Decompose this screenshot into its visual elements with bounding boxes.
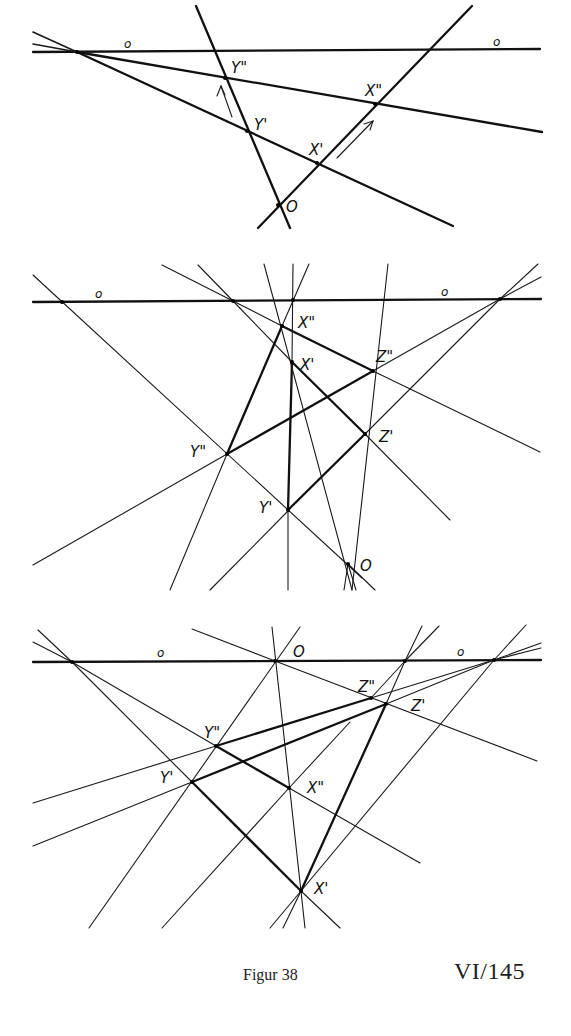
- label-y2: Y": [204, 724, 220, 742]
- label-y2: Y": [231, 59, 247, 77]
- axis-o-line: [33, 299, 541, 302]
- label-z2: Z": [375, 348, 393, 366]
- label-O: O: [293, 643, 305, 661]
- panel-top: o o Y" Y' X" X' O: [33, 6, 542, 228]
- label-z2: Z": [357, 678, 375, 696]
- page-reference: VI/145: [454, 958, 525, 985]
- line-y-track: [196, 6, 290, 228]
- label-o-right: o: [493, 35, 500, 49]
- label-x1: X': [313, 880, 328, 898]
- axis-o-line: [33, 49, 540, 52]
- label-o-left: o: [95, 287, 102, 301]
- figure-caption: Figur 38: [243, 966, 298, 984]
- arrow-y-icon: [217, 86, 232, 117]
- label-x2: X": [306, 779, 324, 797]
- label-x1: X': [299, 356, 314, 374]
- label-z1: Z': [378, 428, 393, 446]
- label-x1: X': [308, 141, 323, 159]
- line-vertex-y1-x1: [77, 52, 453, 226]
- label-O: O: [360, 557, 372, 575]
- label-o-right: o: [441, 285, 448, 299]
- figure-38-diagram: o o Y" Y' X" X' O: [0, 0, 571, 1036]
- label-y1: Y': [259, 499, 272, 517]
- line-vertex-y2-x2: [77, 52, 542, 132]
- panel-bottom: o o O Z" Z' Y" Y' X" X': [33, 625, 541, 928]
- label-y2: Y": [190, 443, 206, 461]
- axis-o-line: [33, 660, 541, 662]
- label-o-left: o: [124, 37, 131, 51]
- label-o-left: o: [157, 646, 164, 660]
- label-x2: X": [364, 82, 382, 100]
- panel-middle: o o X" X' Z" Z' Y" Y' O: [33, 264, 541, 590]
- line-x-track: [258, 6, 472, 228]
- label-x2: X": [297, 314, 315, 332]
- label-z1: Z': [410, 697, 425, 715]
- label-y1: Y': [160, 769, 173, 787]
- label-o-right: o: [457, 645, 464, 659]
- label-O: O: [286, 198, 298, 216]
- label-y1: Y': [254, 116, 267, 134]
